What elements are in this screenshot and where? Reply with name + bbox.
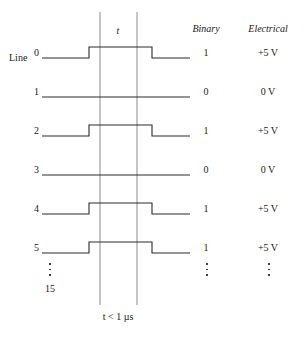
line-number-label: 2	[34, 126, 39, 136]
waveform-trace	[42, 125, 190, 136]
last-line-number: 15	[45, 284, 55, 294]
time-interval-label: t	[117, 26, 120, 36]
electrical-column-header: Electrical	[248, 24, 287, 34]
ellipsis-dot	[206, 269, 208, 271]
ellipsis-dot	[49, 274, 51, 276]
line-number-label: 5	[34, 243, 39, 253]
binary-value: 1	[204, 126, 209, 136]
binary-value: 0	[204, 165, 209, 175]
waveform-traces	[42, 47, 190, 253]
electrical-ellipsis-dots	[268, 263, 270, 276]
binary-value: 1	[204, 48, 209, 58]
line-number-label: 4	[34, 204, 39, 214]
waveform-trace	[42, 203, 190, 214]
ellipsis-dot	[206, 274, 208, 276]
binary-column-header: Binary	[192, 24, 219, 34]
electrical-value: +5 V	[258, 243, 278, 253]
binary-value: 1	[204, 204, 209, 214]
electrical-value: +5 V	[258, 126, 278, 136]
ellipsis-dot	[206, 263, 208, 265]
line-number-label: 3	[34, 165, 39, 175]
electrical-value: +5 V	[258, 204, 278, 214]
line-number-label: 0	[34, 48, 39, 58]
timing-guide-lines	[100, 12, 137, 305]
signal-timing-diagram: Binary Electrical Line t t < 1 µs 01+5 V…	[0, 0, 306, 337]
binary-value: 0	[204, 87, 209, 97]
electrical-value: 0 V	[261, 165, 276, 175]
line-ellipsis-dots	[49, 263, 51, 276]
duration-caption: t < 1 µs	[103, 312, 134, 322]
line-prefix-label: Line	[9, 53, 27, 63]
waveform-trace	[42, 47, 190, 58]
waveform-trace	[42, 242, 190, 253]
ellipsis-dot	[268, 269, 270, 271]
line-number-label: 1	[34, 87, 39, 97]
ellipsis-dot	[49, 263, 51, 265]
ellipsis-dot	[268, 274, 270, 276]
electrical-value: 0 V	[261, 87, 276, 97]
ellipsis-dot	[49, 269, 51, 271]
electrical-value: +5 V	[258, 48, 278, 58]
binary-value: 1	[204, 243, 209, 253]
binary-ellipsis-dots	[206, 263, 208, 276]
ellipsis-dot	[268, 263, 270, 265]
